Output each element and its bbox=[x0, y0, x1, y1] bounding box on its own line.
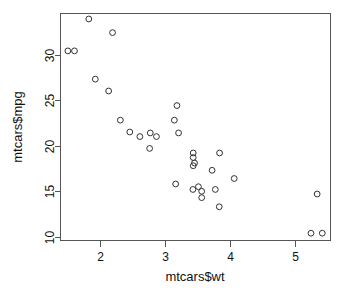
y-tick-label: 15 bbox=[43, 185, 57, 199]
y-tick-label: 10 bbox=[43, 231, 57, 245]
plot-canvas: 2345 1015202530 mtcars$wt mtcars$mpg bbox=[0, 0, 346, 292]
data-point bbox=[72, 48, 78, 54]
y-tick-label: 20 bbox=[43, 140, 57, 154]
data-point-series bbox=[65, 16, 325, 236]
x-tick-label: 3 bbox=[162, 250, 169, 264]
data-point bbox=[92, 76, 98, 82]
data-point bbox=[173, 181, 179, 187]
data-point bbox=[314, 191, 320, 197]
data-point bbox=[199, 188, 205, 194]
x-axis-tick-labels: 2345 bbox=[97, 250, 299, 264]
x-tick-label: 5 bbox=[292, 250, 299, 264]
x-tick-label: 2 bbox=[97, 250, 104, 264]
data-point bbox=[176, 130, 182, 136]
y-tick-label: 25 bbox=[43, 94, 57, 108]
data-point bbox=[147, 130, 153, 136]
data-point bbox=[127, 129, 133, 135]
data-point bbox=[231, 176, 237, 182]
data-point bbox=[154, 134, 160, 140]
data-point bbox=[106, 88, 112, 94]
data-point bbox=[212, 187, 218, 193]
data-point bbox=[171, 117, 177, 123]
data-point bbox=[209, 167, 215, 173]
data-point bbox=[217, 150, 223, 156]
y-axis-tick-labels: 1015202530 bbox=[43, 49, 57, 245]
plot-frame-box bbox=[61, 14, 331, 241]
x-axis-ticks bbox=[101, 241, 296, 247]
y-axis-title: mtcars$mpg bbox=[10, 91, 25, 163]
data-point bbox=[319, 230, 325, 236]
scatter-plot-figure: 2345 1015202530 mtcars$wt mtcars$mpg bbox=[0, 0, 346, 292]
x-axis-title: mtcars$wt bbox=[165, 269, 225, 284]
data-point bbox=[137, 134, 143, 140]
data-point bbox=[174, 103, 180, 109]
data-point bbox=[190, 187, 196, 193]
data-point bbox=[216, 204, 222, 210]
y-tick-label: 30 bbox=[43, 49, 57, 63]
data-point bbox=[199, 195, 205, 201]
data-point bbox=[65, 48, 71, 54]
data-point bbox=[110, 30, 116, 36]
data-point bbox=[147, 146, 153, 152]
data-point bbox=[86, 16, 92, 22]
x-tick-label: 4 bbox=[227, 250, 234, 264]
data-point bbox=[308, 230, 314, 236]
data-point bbox=[117, 117, 123, 123]
